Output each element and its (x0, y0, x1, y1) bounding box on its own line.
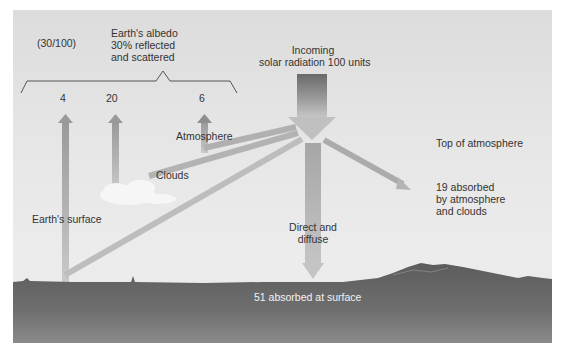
absorbed-atmosphere-arrow (324, 140, 411, 190)
energy-balance-diagram: (30/100) Earth's albedo 30% reflected an… (13, 10, 552, 343)
incoming-solar-label: Incoming solar radiation 100 units (259, 44, 367, 68)
incoming-line-1: Incoming (259, 44, 367, 56)
albedo-title-label: Earth's albedo 30% reflected and scatter… (111, 27, 178, 63)
reflected-value-surface: 4 (60, 92, 66, 104)
albedo-line-2: 30% reflected (111, 39, 178, 51)
earth-surface-label: Earth's surface (32, 213, 102, 225)
reflected-arrow-surface (58, 114, 73, 283)
absorbed-atm-line-1: 19 absorbed (436, 181, 505, 193)
albedo-line-3: and scattered (111, 51, 178, 63)
incoming-line-2: solar radiation 100 units (259, 56, 367, 68)
cloud-shape (100, 180, 176, 205)
absorbed-atm-line-3: and clouds (436, 205, 505, 217)
atmosphere-label: Atmosphere (176, 130, 233, 142)
scatter-beams (65, 127, 302, 275)
clouds-label: Clouds (156, 169, 189, 181)
reflected-value-atmosphere: 6 (199, 92, 205, 104)
absorbed-atm-line-2: by atmosphere (436, 193, 505, 205)
albedo-bracket (21, 71, 237, 93)
albedo-fraction-label: (30/100) (37, 37, 76, 49)
direct-diffuse-label: Direct and diffuse (275, 221, 351, 245)
absorbed-atmosphere-label: 19 absorbed by atmosphere and clouds (436, 181, 505, 217)
direct-line-2: diffuse (275, 233, 351, 245)
top-of-atmosphere-label: Top of atmosphere (436, 137, 523, 149)
earth-surface-ground (13, 263, 552, 343)
direct-diffuse-arrow (302, 143, 324, 279)
reflected-arrow-clouds (108, 114, 123, 191)
direct-line-1: Direct and (275, 221, 351, 233)
reflected-value-clouds: 20 (106, 92, 118, 104)
albedo-line-1: Earth's albedo (111, 27, 178, 39)
absorbed-surface-label: 51 absorbed at surface (254, 291, 361, 303)
